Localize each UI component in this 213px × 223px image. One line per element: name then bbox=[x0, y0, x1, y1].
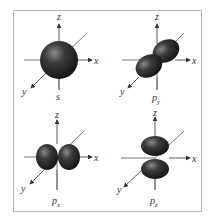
orbital-label: px bbox=[51, 195, 61, 209]
panel-s-orbital: z x y s bbox=[21, 11, 99, 102]
px-lobe-right bbox=[58, 144, 80, 170]
x-axis-label: x bbox=[191, 153, 197, 164]
y-axis bbox=[124, 167, 145, 187]
y-axis bbox=[31, 73, 46, 88]
x-axis-label: x bbox=[93, 152, 99, 163]
z-axis-label: z bbox=[56, 11, 61, 22]
y-axis-label: y bbox=[116, 184, 122, 195]
y-axis bbox=[128, 77, 139, 88]
panel-px-orbital: z x y px bbox=[20, 109, 99, 209]
orbital-label: pz bbox=[149, 195, 158, 209]
px-lobe-left bbox=[36, 144, 58, 170]
orbital-label: s bbox=[56, 91, 60, 102]
panel-pz-orbital: z x y pz bbox=[116, 107, 197, 209]
pz-lobe-bottom bbox=[141, 159, 169, 179]
z-axis-label: z bbox=[54, 109, 59, 120]
orbital-label: py bbox=[151, 92, 161, 106]
z-axis-label: z bbox=[154, 11, 159, 22]
y-axis-label: y bbox=[20, 183, 26, 194]
pz-lobe-top bbox=[141, 136, 169, 156]
orbital-diagram: z x y s z x y py z x y px bbox=[0, 0, 213, 223]
y-axis-label: y bbox=[119, 86, 125, 97]
y-axis-label: y bbox=[21, 86, 27, 97]
panel-py-orbital: z x y py bbox=[119, 11, 197, 106]
x-axis-label: x bbox=[191, 55, 197, 66]
y-axis bbox=[30, 170, 44, 184]
x-axis-label: x bbox=[93, 55, 99, 66]
z-axis-label: z bbox=[152, 107, 157, 118]
